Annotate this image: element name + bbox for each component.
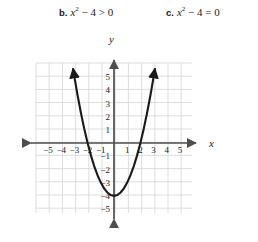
x-tick-label: 1	[125, 145, 130, 155]
expression-b-rest: − 4 > 0	[79, 6, 113, 18]
expression-c-rest: − 4 = 0	[185, 6, 219, 18]
curve-right-arrowhead	[154, 69, 155, 77]
x-axis-label: x	[208, 137, 214, 149]
curve-left-arrowhead	[73, 69, 74, 77]
x-tick-label: −4	[56, 145, 66, 155]
x-tick-label: −5	[43, 145, 53, 155]
y-axis-label: y	[108, 33, 114, 45]
expression-label-c: c.x2 − 4 = 0	[166, 3, 220, 19]
y-tick-label: 3	[106, 99, 111, 109]
x-tick-label: −3	[70, 145, 80, 155]
expression-tag-c: c.	[166, 7, 174, 18]
parabola-graph: −5−4−3−2−11234554321−1−2−3−4−5 x y	[0, 24, 258, 242]
y-tick-label: −5	[100, 204, 110, 214]
y-tick-label: 5	[106, 72, 111, 82]
expression-label-row: b.x2 − 4 > 0 c.x2 − 4 = 0	[0, 0, 258, 24]
y-tick-label: 2	[106, 112, 111, 122]
x-tick-label: 3	[151, 145, 156, 155]
y-tick-label: 4	[106, 85, 111, 95]
x-tick-label: 4	[165, 145, 170, 155]
y-tick-label: 1	[106, 125, 111, 135]
expression-tag-b: b.	[59, 7, 67, 18]
expression-label-b: b.x2 − 4 > 0	[59, 3, 113, 19]
y-tick-label: −1	[100, 151, 110, 161]
y-tick-label: −2	[100, 165, 110, 175]
x-tick-label: 5	[178, 145, 183, 155]
graph-canvas: −5−4−3−2−11234554321−1−2−3−4−5 x y	[0, 24, 258, 242]
